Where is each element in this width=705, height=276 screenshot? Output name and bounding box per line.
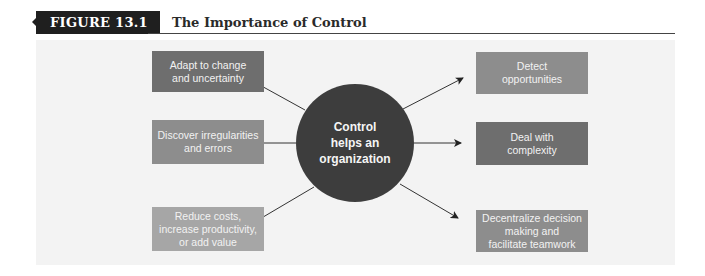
control-hub-circle: Control helps an organization [296,84,414,202]
box-detect-opportunities: Detect opportunities [476,52,588,94]
hub-line: helps an [319,135,390,151]
box-line: increase productivity, [159,223,257,236]
hub-line: Control [319,119,390,135]
box-line: Adapt to change [170,59,246,72]
box-line: Decentralize decision [482,212,582,225]
hub-line: organization [319,151,390,167]
box-line: opportunities [502,73,562,86]
box-line: complexity [507,144,557,157]
box-line: and errors [158,142,259,155]
box-adapt-to-change: Adapt to change and uncertainty [152,51,264,92]
box-line: Detect [502,60,562,73]
box-line: Deal with [507,131,557,144]
box-decentralize-decision: Decentralize decision making and facilit… [476,210,588,252]
box-line: and uncertainty [170,72,246,85]
box-line: or add value [159,236,257,249]
box-line: making and [482,225,582,238]
box-deal-with-complexity: Deal with complexity [476,122,588,165]
arrow-to-decentralize [400,184,458,218]
box-line: Discover irregularities [158,129,259,142]
box-reduce-costs: Reduce costs, increase productivity, or … [152,207,264,251]
box-line: Reduce costs, [159,210,257,223]
box-discover-irregularities: Discover irregularities and errors [152,120,264,164]
arrow-to-detect [403,78,463,109]
box-line: facilitate teamwork [482,238,582,251]
